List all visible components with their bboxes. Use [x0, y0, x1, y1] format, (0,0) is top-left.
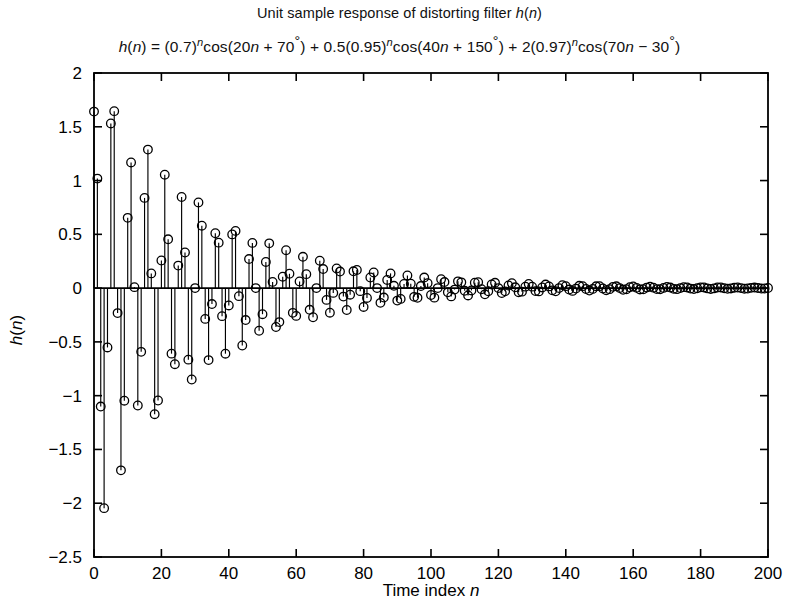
y-tick-label: −1.5 — [48, 440, 82, 459]
chart-title: Unit sample response of distorting filte… — [0, 5, 799, 21]
x-tick-label: 80 — [354, 564, 373, 583]
y-tick-label: −1 — [63, 387, 82, 406]
figure-canvas: Unit sample response of distorting filte… — [0, 0, 799, 606]
y-tick-label: −0.5 — [48, 333, 82, 352]
chart-subtitle-formula: h(n) = (0.7)ncos(20n + 70°) + 0.5(0.95)n… — [0, 36, 799, 56]
y-tick-label: −2.5 — [48, 548, 82, 567]
y-axis-ticks — [94, 73, 768, 557]
chart-title-main: Unit sample response of distorting filte… — [257, 5, 516, 21]
y-tick-label: 2 — [73, 64, 82, 83]
x-axis-ticks — [94, 73, 768, 557]
y-tick-label: 0.5 — [58, 225, 82, 244]
x-tick-label: 120 — [484, 564, 512, 583]
y-tick-label: 0 — [73, 279, 82, 298]
chart-title-hn: h — [516, 5, 524, 21]
x-tick-label: 40 — [219, 564, 238, 583]
y-axis-tick-labels: 21.510.50−0.5−1−1.5−2−2.5 — [48, 64, 82, 567]
stem-plot: 02040608010012014016018020021.510.50−0.5… — [0, 0, 799, 606]
x-tick-label: 60 — [287, 564, 306, 583]
x-axis-label: Time index n — [383, 581, 480, 600]
x-tick-label: 140 — [552, 564, 580, 583]
y-tick-label: 1.5 — [58, 118, 82, 137]
x-tick-label: 0 — [89, 564, 98, 583]
x-tick-label: 160 — [619, 564, 647, 583]
x-tick-label: 180 — [686, 564, 714, 583]
x-tick-label: 20 — [152, 564, 171, 583]
axes-frame — [94, 73, 768, 557]
stem-series — [90, 107, 773, 513]
y-tick-label: 1 — [73, 172, 82, 191]
y-axis-label: h(n) — [7, 315, 26, 345]
x-tick-label: 200 — [754, 564, 782, 583]
y-tick-label: −2 — [63, 494, 82, 513]
